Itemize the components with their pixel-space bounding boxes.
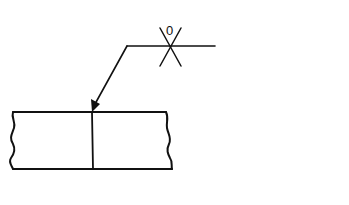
right-break-line [166, 112, 172, 169]
leader-line [95, 46, 127, 104]
plates [10, 112, 172, 169]
symbol-label: 0 [166, 23, 173, 38]
arrowhead-icon [91, 99, 100, 112]
welding-diagram: 0 [0, 0, 349, 205]
joint-seam [92, 112, 93, 169]
left-break-line [10, 112, 15, 169]
